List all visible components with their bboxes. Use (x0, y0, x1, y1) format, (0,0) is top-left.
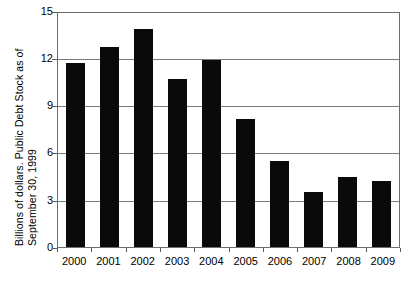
bar-slot (126, 13, 160, 247)
y-tick-label-9: 9 (33, 100, 53, 111)
x-tick-label-2004: 2004 (194, 254, 228, 270)
x-tick-label-2006: 2006 (263, 254, 297, 270)
bar-slot (194, 13, 228, 247)
x-tick-label-2007: 2007 (297, 254, 331, 270)
bar-2007 (304, 192, 323, 247)
y-axis-title: Billions of dollars. Public Debt Stock a… (0, 0, 32, 250)
bar-2009 (372, 181, 391, 247)
plot-area (57, 12, 400, 248)
bar-slot (160, 13, 194, 247)
y-tick-label-0: 0 (33, 242, 53, 253)
bar-slot (263, 13, 297, 247)
x-axis-tick-labels: 2000200120022003200420052006200720082009 (57, 254, 400, 270)
x-tick-label-2005: 2005 (228, 254, 262, 270)
bar-2003 (168, 79, 187, 247)
bar-2000 (66, 63, 85, 247)
clipped-caption (6, 276, 266, 286)
bar-series (58, 13, 399, 247)
bar-slot (331, 13, 365, 247)
x-tick-mark (91, 248, 92, 252)
bar-2006 (270, 161, 289, 247)
y-axis-title-line-1: Billions of dollars. Public Debt Stock a… (13, 48, 25, 246)
x-tick-mark (194, 248, 195, 252)
x-tick-mark (366, 248, 367, 252)
x-tick-mark (400, 248, 401, 252)
x-tick-mark (297, 248, 298, 252)
x-tick-mark (160, 248, 161, 252)
x-tick-mark (331, 248, 332, 252)
bar-slot (297, 13, 331, 247)
y-tick-label-12: 12 (33, 53, 53, 64)
x-tick-label-2008: 2008 (331, 254, 365, 270)
bar-2008 (338, 177, 357, 247)
bar-slot (365, 13, 399, 247)
bar-chart: Billions of dollars. Public Debt Stock a… (0, 0, 407, 286)
bar-2001 (100, 47, 119, 247)
x-tick-mark (263, 248, 264, 252)
y-tick-label-15: 15 (33, 6, 53, 17)
x-tick-mark (126, 248, 127, 252)
y-tick-label-6: 6 (33, 147, 53, 158)
x-tick-label-2001: 2001 (91, 254, 125, 270)
y-axis-tick-labels: 15 12 9 6 3 0 (31, 0, 53, 260)
x-tick-label-2000: 2000 (57, 254, 91, 270)
x-tick-label-2002: 2002 (126, 254, 160, 270)
x-axis-tick-marks (57, 248, 400, 253)
bar-2002 (134, 29, 153, 247)
x-tick-label-2009: 2009 (366, 254, 400, 270)
bar-slot (228, 13, 262, 247)
y-tick-label-3: 3 (33, 195, 53, 206)
x-tick-mark (229, 248, 230, 252)
x-tick-label-2003: 2003 (160, 254, 194, 270)
bar-slot (92, 13, 126, 247)
x-tick-mark (57, 248, 58, 252)
bar-2005 (236, 119, 255, 247)
bar-slot (58, 13, 92, 247)
bar-2004 (202, 60, 221, 247)
